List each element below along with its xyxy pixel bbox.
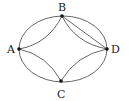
vertex-b — [60, 14, 64, 18]
vertex-c — [59, 79, 63, 83]
label-b: B — [58, 1, 66, 14]
vertex-d — [105, 47, 109, 51]
label-d: D — [111, 43, 120, 56]
edge-c-a-inner — [19, 49, 61, 81]
label-c: C — [57, 88, 65, 101]
label-a: A — [6, 43, 16, 56]
edge-b-d-straight — [62, 16, 107, 49]
graph-diagram: A B C D — [0, 0, 129, 101]
vertex-a — [17, 47, 21, 51]
edge-d-c-inner — [61, 49, 107, 81]
outer-ellipse — [19, 16, 107, 82]
